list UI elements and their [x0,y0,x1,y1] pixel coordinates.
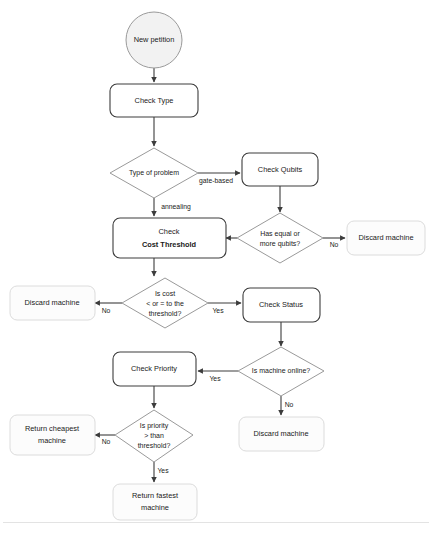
edge-label-qubits-no: No [330,241,339,248]
edge-label-online-yes: Yes [209,375,221,382]
check-priority-label-plain: Check [131,364,154,373]
node-check-cost-threshold[interactable]: Check Cost Threshold [113,218,226,258]
check-cost-threshold-label-line2: Cost Threshold [142,240,197,249]
is-cost-label-line2: < or = to the [146,300,184,307]
has-qubits-label-line2: more qubits? [260,240,301,248]
check-qubits-label-bold: Qubits [281,165,303,174]
is-cost-label-line1: Is cost [155,290,175,297]
new-petition-label: New petition [134,35,175,44]
edge-label-priority-no: No [102,438,111,445]
check-status-label-bold: Status [282,300,303,309]
is-priority-label-line3: threshold? [138,442,171,449]
return-cheapest-label-line1: Return cheapest [25,424,79,433]
node-check-qubits[interactable]: Check Qubits [242,153,318,186]
check-qubits-label-plain: Check [258,165,281,174]
is-cost-label-line3: threshold? [149,310,182,317]
check-cost-threshold-shape [113,218,226,258]
type-of-problem-label: Type of problem [129,169,179,177]
node-is-machine-online[interactable]: Is machine online? [238,347,324,396]
return-fastest-label-line2: machine [141,503,169,512]
node-discard-machine-offline[interactable]: Discard machine [239,417,324,451]
discard-machine-qubits-label: Discard machine [358,233,413,242]
check-type-label-plain: Check [135,96,158,105]
check-status-label: Check Status [259,300,303,309]
is-priority-label-line2: > than [144,432,164,439]
check-cost-threshold-label-line1: Check [159,227,180,236]
discard-machine-cost-label: Discard machine [24,298,79,307]
node-check-type[interactable]: Check Type [110,84,198,117]
node-discard-machine-cost[interactable]: Discard machine [10,286,95,320]
check-type-label-bold: Type [157,96,173,105]
edge-label-priority-yes: Yes [157,467,169,474]
edge-label-cost-no: No [102,307,111,314]
node-has-equal-or-more-qubits[interactable]: Has equal or more qubits? [237,213,323,263]
edge-label-online-no: No [285,401,294,408]
has-qubits-label: Has equal or [260,230,300,238]
node-check-priority[interactable]: Check Priority [113,352,196,386]
edge-label-cost-yes: Yes [212,307,224,314]
return-fastest-label-line1: Return fastest [132,491,178,500]
node-check-status[interactable]: Check Status [243,288,320,322]
discard-machine-offline-label: Discard machine [253,429,308,438]
check-type-label: Check Type [135,96,174,105]
node-return-cheapest-machine[interactable]: Return cheapest machine [10,415,95,455]
node-is-priority-above-threshold[interactable]: Is priority > than threshold? [115,410,193,462]
edge-label-annealing: annealing [161,203,191,211]
node-is-cost-below-threshold[interactable]: Is cost < or = to the threshold? [122,278,208,328]
check-priority-label: Check Priority [131,364,177,373]
return-cheapest-label-line2: machine [38,436,66,445]
node-type-of-problem[interactable]: Type of problem [110,148,198,198]
node-new-petition[interactable]: New petition [126,12,182,68]
flowchart-diagram: gate-based annealing No Yes No Yes Yes N… [0,0,432,539]
has-qubits-shape [237,213,323,263]
check-priority-label-bold: Priority [154,364,177,373]
node-return-fastest-machine[interactable]: Return fastest machine [113,484,197,520]
edge-label-gate-based: gate-based [199,177,233,185]
node-discard-machine-qubits[interactable]: Discard machine [347,221,425,255]
is-machine-online-label: Is machine online? [252,367,310,374]
check-qubits-label: Check Qubits [258,165,303,174]
is-priority-label-line1: Is priority [140,422,169,430]
check-status-label-plain: Check [259,300,282,309]
